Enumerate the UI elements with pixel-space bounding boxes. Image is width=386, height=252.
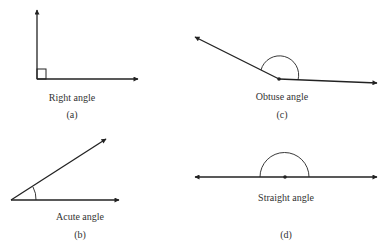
upper-ray: [11, 139, 106, 200]
tag-c: (c): [222, 109, 342, 120]
tag-b: (b): [20, 229, 140, 240]
tag-d: (d): [226, 229, 346, 240]
straight-angle-figure: [195, 153, 377, 179]
vertex-dot: [277, 77, 281, 81]
straight-arc: [260, 153, 309, 178]
left-ray: [195, 37, 279, 79]
acute-angle-figure: [11, 139, 119, 200]
acute-arc: [33, 187, 36, 200]
vertex-dot: [283, 175, 287, 179]
obtuse-angle-figure: [195, 37, 377, 83]
right-ray: [279, 79, 377, 83]
right-angle-marker: [37, 69, 46, 79]
caption-acute-angle: Acute angle: [20, 211, 140, 222]
tag-a: (a): [12, 109, 132, 120]
right-angle-figure: [37, 10, 138, 79]
caption-right-angle: Right angle: [12, 92, 132, 103]
caption-straight-angle: Straight angle: [226, 192, 346, 203]
obtuse-arc: [261, 56, 299, 80]
caption-obtuse-angle: Obtuse angle: [222, 91, 342, 102]
